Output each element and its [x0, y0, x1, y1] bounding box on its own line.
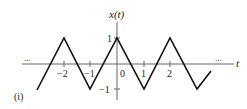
x-tick-label-neg2: −2 — [57, 68, 68, 79]
x-axis-label: t — [236, 57, 240, 69]
y-tick-label-1: 1 — [107, 33, 112, 44]
ellipsis-right: ... — [215, 53, 222, 63]
x-tick-label-neg1: −1 — [84, 68, 95, 79]
x-tick-label-0: 0 — [120, 68, 125, 79]
y-axis-label: x(t) — [108, 8, 125, 21]
x-tick-label-1: 1 — [141, 68, 146, 79]
triangle-wave-diagram: x(t) t ... ... 1 −1 −2 −1 0 1 2 (i) — [0, 0, 247, 109]
ellipsis-left: ... — [24, 53, 31, 63]
panel-label: (i) — [14, 91, 23, 103]
y-tick-label-neg1: −1 — [99, 84, 110, 95]
x-tick-label-2: 2 — [167, 68, 172, 79]
